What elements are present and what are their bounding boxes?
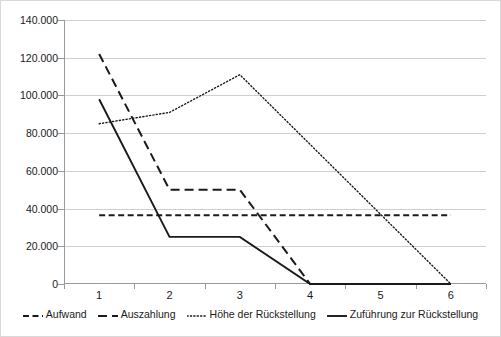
y-axis-tick-label: 100.000 (1, 90, 58, 101)
legend-swatch-icon (23, 310, 43, 318)
legend-item[interactable]: Zuführung zur Rückstellung (327, 309, 478, 320)
y-axis-tick-mark (58, 171, 64, 172)
legend-item[interactable]: Aufwand (23, 309, 87, 320)
y-axis-tick-label: 120.000 (1, 53, 58, 64)
y-axis-tick-mark (58, 133, 64, 134)
y-axis-tick-label: 80.000 (1, 128, 58, 139)
legend-item-label: Auszahlung (121, 309, 176, 320)
gridline (65, 95, 486, 96)
x-axis-tick-mark (275, 284, 276, 289)
y-axis-tick-label: 60.000 (1, 166, 58, 177)
x-axis-tick-mark (205, 284, 206, 289)
gridline (65, 133, 486, 134)
y-axis-tick-mark (58, 58, 64, 59)
x-axis-tick-mark (486, 284, 487, 289)
gridline (65, 246, 486, 247)
x-axis-tick-mark (134, 284, 135, 289)
x-axis-tick-label: 3 (225, 290, 255, 301)
x-axis-tick-label: 4 (295, 290, 325, 301)
legend-swatch-icon (187, 310, 207, 318)
y-axis-tick-mark (58, 246, 64, 247)
x-axis-tick-mark (64, 284, 65, 289)
gridline (65, 171, 486, 172)
x-axis-tick-label: 2 (155, 290, 185, 301)
chart-legend: AufwandAuszahlungHöhe der RückstellungZu… (1, 309, 500, 320)
gridline (65, 58, 486, 59)
y-axis-tick-label: 20.000 (1, 241, 58, 252)
x-axis-tick-mark (416, 284, 417, 289)
y-axis-tick-label: 140.000 (1, 15, 58, 26)
legend-item-label: Höhe der Rückstellung (210, 309, 316, 320)
y-axis-tick-label: 0 (1, 279, 58, 290)
x-axis-tick-label: 6 (436, 290, 466, 301)
legend-item-label: Zuführung zur Rückstellung (350, 309, 478, 320)
x-axis-tick-mark (345, 284, 346, 289)
legend-swatch-icon (98, 310, 118, 318)
gridline (65, 20, 486, 21)
y-axis-tick-label: 40.000 (1, 204, 58, 215)
gridline (65, 209, 486, 210)
legend-item[interactable]: Höhe der Rückstellung (187, 309, 316, 320)
legend-item[interactable]: Auszahlung (98, 309, 176, 320)
legend-item-label: Aufwand (46, 309, 87, 320)
x-axis-tick-label: 1 (84, 290, 114, 301)
x-axis-tick-label: 5 (366, 290, 396, 301)
y-axis-tick-mark (58, 20, 64, 21)
legend-swatch-icon (327, 310, 347, 318)
y-axis-tick-mark (58, 95, 64, 96)
y-axis-tick-mark (58, 209, 64, 210)
chart-container: 020.00040.00060.00080.000100.000120.0001… (0, 0, 501, 337)
plot-area (64, 20, 486, 284)
